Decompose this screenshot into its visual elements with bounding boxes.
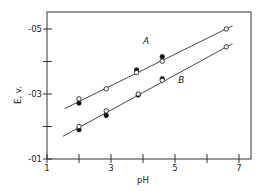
open-point-a — [160, 59, 164, 63]
x-tick-label: 3 — [108, 163, 113, 173]
y-tick-label: -03 — [28, 89, 42, 99]
x-tick-label: 5 — [172, 163, 177, 173]
y-tick-label: -05 — [28, 24, 42, 34]
y-axis-title: E, v. — [13, 86, 23, 104]
y-axis-ticks: -01-03-05 — [28, 24, 52, 164]
chart: 1357 -01-03-05 AB pH E, v. — [0, 0, 266, 191]
series-label-b: B — [178, 75, 184, 85]
x-axis-title: pH — [137, 175, 149, 185]
y-tick-label: -01 — [28, 154, 42, 164]
open-point-b — [136, 92, 140, 96]
x-tick-label: 7 — [236, 163, 241, 173]
x-tick-label: 1 — [44, 163, 49, 173]
open-point-b — [224, 45, 228, 49]
filled-point-a — [160, 54, 164, 58]
series-label-a: A — [142, 36, 149, 46]
open-point-b — [104, 109, 108, 113]
filled-point-b — [104, 113, 108, 117]
open-point-a — [134, 70, 138, 74]
open-point-b — [77, 124, 81, 128]
open-point-a — [104, 87, 108, 91]
fit-line-b — [63, 44, 233, 137]
plot-frame — [47, 12, 251, 159]
open-point-a — [77, 97, 81, 101]
open-point-b — [160, 78, 164, 82]
filled-point-a — [77, 101, 81, 105]
x-axis-ticks: 1357 — [44, 154, 241, 173]
open-point-a — [224, 27, 228, 31]
